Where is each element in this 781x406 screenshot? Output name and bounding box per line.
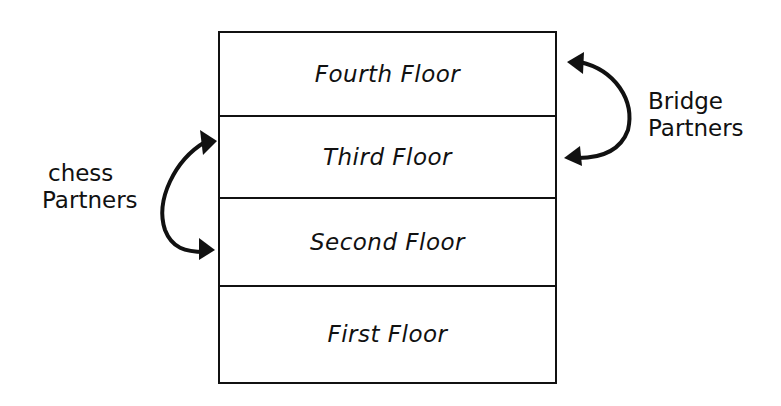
bridge-label-line2: Partners [648, 115, 744, 142]
chess-label-line1: chess [42, 160, 138, 187]
bridge-label-line1: Bridge [648, 88, 744, 115]
chess-partners-label: chess Partners [42, 160, 138, 214]
bridge-arrow-icon [564, 52, 629, 166]
bridge-partners-label: Bridge Partners [648, 88, 744, 142]
chess-label-line2: Partners [42, 187, 138, 214]
chess-arrow-icon [162, 130, 217, 260]
